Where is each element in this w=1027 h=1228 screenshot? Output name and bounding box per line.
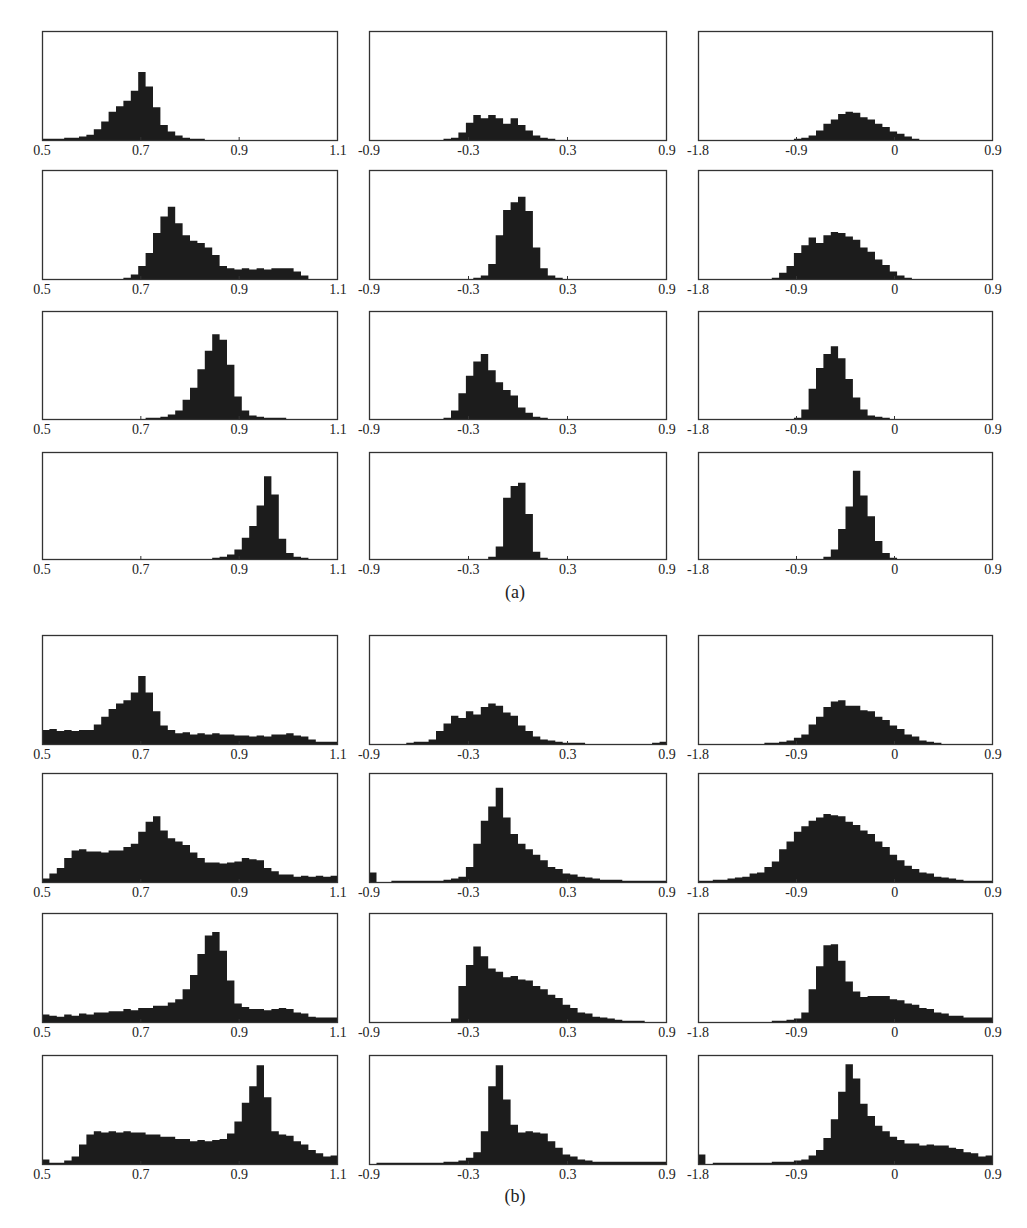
x-tick-label: 0.9 [231,563,249,577]
x-tick-label: -0.9 [785,748,807,762]
x-tick-label: 0.7 [132,748,150,762]
histogram-area [698,1064,993,1165]
histogram-panel [42,773,338,883]
x-tick-label: -1.8 [687,283,709,297]
x-tick-label: 0.5 [33,423,51,437]
x-tick-label: 0 [891,283,898,297]
x-tick-label: 1.1 [329,423,347,437]
histogram-area [369,354,667,420]
x-tick-label: -0.9 [358,283,380,297]
x-tick-label: 1.1 [329,748,347,762]
x-tick-label: -0.3 [457,886,479,900]
x-tick-label: -1.8 [687,1168,709,1182]
x-tick-label: -0.3 [457,748,479,762]
x-tick-label: 0.3 [559,423,577,437]
histogram-panel [42,31,338,141]
x-tick-label: 0 [891,748,898,762]
panel-frame [43,636,338,745]
x-tick-label: 0.9 [231,283,249,297]
histogram-panel [369,1055,667,1165]
x-tick-label: -1.8 [687,144,709,158]
x-tick-label: -1.8 [687,748,709,762]
x-tick-label: -1.8 [687,1026,709,1040]
x-tick-label: -0.9 [785,1168,807,1182]
x-tick-label: 0.7 [132,1168,150,1182]
histogram-area [369,483,667,560]
x-tick-label: 0.3 [559,748,577,762]
x-tick-label: 0.9 [658,1168,676,1182]
panel-frame [43,32,338,141]
histogram-panel [698,913,993,1023]
histogram-area [698,700,993,745]
histogram-panel [698,452,993,560]
x-tick-label: 0.9 [984,144,1002,158]
histogram-area [369,704,667,745]
x-tick-label: 0.9 [231,1026,249,1040]
x-tick-label: -0.9 [785,886,807,900]
x-tick-label: 0.5 [33,1026,51,1040]
x-tick-label: 0.9 [231,1168,249,1182]
x-tick-label: 0.5 [33,563,51,577]
histogram-panel [42,311,338,420]
x-tick-label: 0.9 [658,886,676,900]
x-tick-label: 0.9 [231,748,249,762]
x-tick-label: 0.9 [231,144,249,158]
x-tick-label: -0.3 [457,1026,479,1040]
x-tick-label: 0.5 [33,1168,51,1182]
x-tick-label: 0 [891,886,898,900]
x-tick-label: 1.1 [329,1026,347,1040]
x-tick-label: 0.5 [33,283,51,297]
histogram-panel [698,170,993,280]
x-tick-label: -0.3 [457,1168,479,1182]
x-tick-label: 0.7 [132,886,150,900]
x-tick-label: -0.3 [457,283,479,297]
histogram-panel [42,170,338,280]
x-tick-label: -0.9 [785,144,807,158]
x-tick-label: 0.9 [984,423,1002,437]
x-tick-label: 0.9 [658,1026,676,1040]
histogram-panel [42,913,338,1023]
x-tick-label: -0.9 [358,1026,380,1040]
x-tick-label: 0.3 [559,283,577,297]
subfigure-label: (a) [505,582,525,603]
histogram-panel [369,452,667,560]
x-tick-label: 0 [891,1168,898,1182]
x-tick-label: 0.9 [658,563,676,577]
x-tick-label: -0.9 [785,423,807,437]
histogram-area [698,944,993,1023]
histogram-area [42,816,338,883]
x-tick-label: 0.9 [658,283,676,297]
x-tick-label: 0.3 [559,1026,577,1040]
x-tick-label: -0.3 [457,144,479,158]
histogram-area [42,72,338,141]
histogram-area [42,932,338,1023]
histogram-area [42,207,338,280]
x-tick-label: -0.9 [785,283,807,297]
x-tick-label: -0.9 [785,563,807,577]
histogram-panel [698,773,993,883]
x-tick-label: 0.3 [559,563,577,577]
x-tick-label: 0.9 [984,886,1002,900]
histogram-area [369,197,667,280]
x-tick-label: 0.3 [559,886,577,900]
x-tick-label: 1.1 [329,1168,347,1182]
x-tick-label: 0.7 [132,1026,150,1040]
histogram-area [369,788,667,883]
histogram-area [698,471,993,560]
x-tick-label: 1.1 [329,283,347,297]
histogram-panel [369,31,667,141]
histogram-area [698,112,993,141]
histogram-panel [369,170,667,280]
x-tick-label: 0.7 [132,283,150,297]
histogram-panel [698,635,993,745]
x-tick-label: 0.9 [231,886,249,900]
histogram-panel [369,773,667,883]
x-tick-label: 1.1 [329,144,347,158]
x-tick-label: 1.1 [329,886,347,900]
x-tick-label: -0.9 [358,563,380,577]
histogram-area [698,814,993,883]
x-tick-label: 0 [891,144,898,158]
histogram-panel [369,311,667,420]
histogram-panel [42,635,338,745]
x-tick-label: -0.9 [358,886,380,900]
